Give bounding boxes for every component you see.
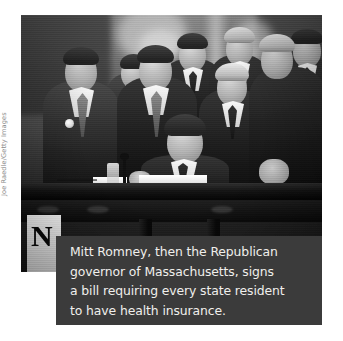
photo-figure: N Mitt Romney, then the Republican gover… <box>0 0 343 341</box>
desk-apron <box>21 200 322 222</box>
desk-drawer-pull-right <box>211 206 233 213</box>
person-back-right-center-hair <box>224 27 255 43</box>
person-back-center-hair <box>177 33 208 49</box>
lapel-pin-front-left <box>65 119 74 128</box>
news-photograph: N <box>21 15 322 272</box>
person-front-right-hands <box>259 159 289 185</box>
desk-drawer-pull-left <box>37 206 59 213</box>
caption-box: Mitt Romney, then the Republican governo… <box>56 236 322 325</box>
photo-credit: Joe Raedle/Getty Images <box>0 96 8 196</box>
caption-text: Mitt Romney, then the Republican governo… <box>70 242 310 320</box>
microphone-head <box>120 153 129 160</box>
desk-top <box>21 183 322 200</box>
person-front-right-hair <box>259 34 295 52</box>
person-front-center-left-hair <box>137 45 174 63</box>
desk-drawer-pull-center <box>87 206 109 213</box>
microphone-stem <box>123 157 126 185</box>
desk-edge-text <box>57 179 97 181</box>
water-glass <box>107 163 119 185</box>
person-far-right-hair <box>291 29 322 44</box>
person-elder-hair <box>215 63 249 81</box>
person-front-left-hair <box>63 47 99 65</box>
placard-letter: N <box>31 221 53 251</box>
